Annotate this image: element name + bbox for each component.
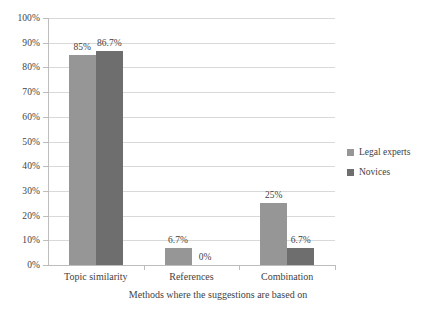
- x-axis-category-label: References: [144, 270, 240, 283]
- y-axis-tick-mark: [43, 216, 48, 217]
- bar: [96, 51, 123, 265]
- y-axis-line: [48, 18, 49, 266]
- bar: [260, 203, 287, 265]
- y-axis-tick-label: 30%: [4, 186, 40, 196]
- y-axis-tick-mark: [43, 240, 48, 241]
- bar-value-label: 25%: [253, 190, 294, 201]
- y-axis-tick-label: 100%: [4, 13, 40, 23]
- legend-label: Novices: [359, 167, 390, 178]
- bar-value-label: 6.7%: [158, 235, 199, 246]
- legend-swatch-icon: [347, 149, 354, 156]
- legend-swatch-icon: [347, 169, 354, 176]
- legend-label: Legal experts: [359, 147, 410, 158]
- bar-value-label: 0%: [185, 252, 226, 263]
- y-axis-tick-label: 80%: [4, 62, 40, 72]
- y-axis-tick-mark: [43, 67, 48, 68]
- y-axis-tick-mark: [43, 191, 48, 192]
- gridline: [48, 265, 335, 266]
- x-axis-tick-mark: [335, 265, 336, 270]
- x-axis-title: Methods where the suggestions are based …: [0, 288, 436, 301]
- bar: [69, 55, 96, 265]
- chart-legend: Legal experts Novices: [347, 146, 436, 186]
- plot-area: 85%86.7%6.7%0%25%6.7%: [48, 18, 335, 265]
- y-axis-tick-label: 40%: [4, 161, 40, 171]
- y-axis-tick-label: 70%: [4, 87, 40, 97]
- x-axis-category-label: Combination: [239, 270, 335, 283]
- y-axis-tick-label: 0%: [4, 260, 40, 270]
- y-axis-tick-mark: [43, 166, 48, 167]
- bar-value-label: 6.7%: [280, 235, 321, 246]
- y-axis-tick-mark: [43, 43, 48, 44]
- bar: [287, 248, 314, 265]
- y-axis-tick-label: 20%: [4, 211, 40, 221]
- y-axis-tick-mark: [43, 142, 48, 143]
- x-axis-category-label: Topic similarity: [48, 270, 144, 283]
- y-axis-tick-mark: [43, 117, 48, 118]
- legend-item-novices: Novices: [347, 166, 436, 178]
- y-axis-tick-mark: [43, 92, 48, 93]
- legend-item-legal-experts: Legal experts: [347, 146, 436, 158]
- y-axis-tick-mark: [43, 265, 48, 266]
- y-axis-tick-label: 10%: [4, 235, 40, 245]
- y-axis-tick-label: 50%: [4, 137, 40, 147]
- y-axis-tick-label: 90%: [4, 38, 40, 48]
- y-axis-tick-label: 60%: [4, 112, 40, 122]
- bar-value-label: 86.7%: [89, 38, 130, 49]
- gridline: [48, 18, 335, 19]
- y-axis-tick-mark: [43, 18, 48, 19]
- bar-chart: 85%86.7%6.7%0%25%6.7% 100%90%80%70%60%50…: [0, 0, 436, 313]
